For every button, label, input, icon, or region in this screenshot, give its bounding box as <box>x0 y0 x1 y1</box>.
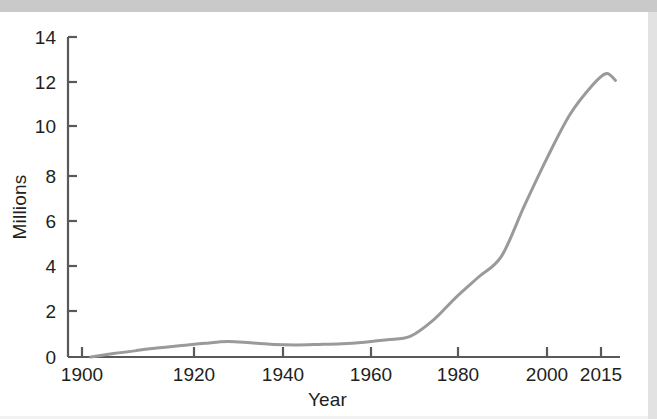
x-tick-label: 1960 <box>350 364 392 385</box>
x-tick-label: 1900 <box>61 364 103 385</box>
x-tick-label: 2000 <box>526 364 568 385</box>
x-tick-label: 1920 <box>173 364 215 385</box>
line-chart-plot: 02468101214 1900192019401960198020002015 <box>0 0 657 419</box>
y-tick-label: 12 <box>35 72 56 93</box>
y-tick-label: 8 <box>45 166 56 187</box>
y-tick-label: 14 <box>35 27 57 48</box>
y-tick-label: 2 <box>45 301 56 322</box>
x-axis-label: Year <box>0 389 657 411</box>
y-tick-label: 0 <box>45 347 56 368</box>
x-tick-label: 1980 <box>437 364 479 385</box>
x-tick-label: 2015 <box>580 364 622 385</box>
y-axis-label: Millions <box>9 157 31 257</box>
x-axis: 1900192019401960198020002015 <box>61 347 622 385</box>
series-line-population <box>91 74 616 357</box>
x-tick-label: 1940 <box>262 364 304 385</box>
y-tick-label: 10 <box>35 116 56 137</box>
figure-root: 02468101214 1900192019401960198020002015… <box>0 0 657 419</box>
y-tick-label: 6 <box>45 211 56 232</box>
y-axis: 02468101214 <box>35 27 77 368</box>
y-tick-label: 4 <box>45 256 56 277</box>
data-series-line <box>91 74 616 357</box>
